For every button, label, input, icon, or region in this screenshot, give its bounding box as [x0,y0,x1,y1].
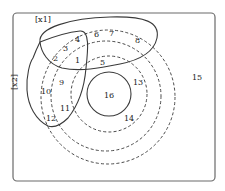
region-6-label: 6 [94,30,99,39]
region-14-label: 14 [124,114,134,123]
region-5-label: 5 [100,58,105,67]
region-13-label: 13 [133,78,143,87]
set-x1-label: [x1] [35,15,51,24]
region-12-label: 12 [46,114,56,123]
region-7-label: 7 [109,29,114,38]
set-x2-boundary [27,31,88,127]
region-1-label: 1 [75,56,80,65]
region-10-label: 10 [41,87,51,96]
region-4-label: 4 [75,35,80,44]
region-15-label: 15 [192,73,202,82]
region-11-label: 11 [60,104,70,113]
region-8-label: 8 [135,36,140,45]
region-9-label: 9 [59,78,64,87]
region-3-label: 3 [63,44,68,53]
region-2-label: 2 [53,54,58,63]
region-16-label: 16 [104,91,114,100]
set-x2-label: [x2] [10,74,19,90]
euler-diagram: [x1] [x2] 1 2 3 4 5 6 7 8 9 10 11 12 13 … [0,0,225,191]
